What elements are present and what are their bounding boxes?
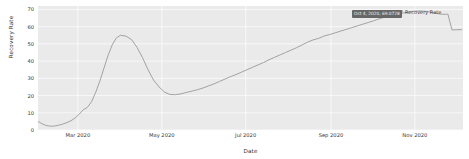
chart-legend[interactable]: Recovery Rate xyxy=(396,9,441,15)
y-axis-tick-label: 50 xyxy=(0,41,34,47)
line-path-recovery-rate xyxy=(38,11,462,126)
y-axis-tick-label: 10 xyxy=(0,110,34,116)
y-axis-label: Recovery Rate xyxy=(8,0,14,79)
y-axis-tick-label: 70 xyxy=(0,6,34,12)
y-axis-tick-label: 40 xyxy=(0,58,34,64)
x-axis-tick-label: May 2020 xyxy=(149,132,175,138)
y-axis-tick-label: 60 xyxy=(0,24,34,30)
chart-figure: Recovery Rate 010203040506070 Mar 2020Ma… xyxy=(0,0,469,159)
x-axis-tick-label: Sep 2020 xyxy=(319,132,344,138)
legend-label-recovery-rate: Recovery Rate xyxy=(405,9,441,15)
y-axis-tick-label: 30 xyxy=(0,75,34,81)
series-line-recovery-rate xyxy=(38,6,463,130)
plot-area xyxy=(38,6,463,130)
tooltip-label: Oct 4, 2020, 69.0728 xyxy=(354,11,400,16)
y-axis-tick-label: 0 xyxy=(0,127,34,133)
x-axis-tick-label: Mar 2020 xyxy=(66,132,91,138)
x-axis-tick-label: Jul 2020 xyxy=(235,132,256,138)
x-axis-label: Date xyxy=(38,148,463,154)
y-axis-tick-label: 20 xyxy=(0,93,34,99)
data-point-tooltip: Oct 4, 2020, 69.0728 xyxy=(352,10,402,19)
x-axis-tick-group: Mar 2020May 2020Jul 2020Sep 2020Nov 2020 xyxy=(38,132,463,142)
x-axis-tick-label: Nov 2020 xyxy=(402,132,427,138)
